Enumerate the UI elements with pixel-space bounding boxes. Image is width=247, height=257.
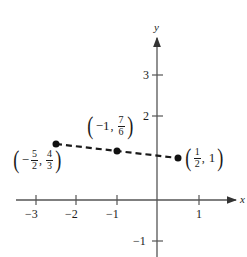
comma: , — [111, 119, 114, 134]
close-paren: ) — [217, 145, 223, 171]
point-label-neg5-2-4-3: ( − 5 2 , 4 3 ) — [12, 147, 63, 173]
y-tick-label: 2 — [143, 110, 149, 122]
fraction-y: 7 6 — [118, 115, 125, 137]
comma: , — [202, 151, 205, 166]
fraction-y: 4 3 — [46, 149, 53, 171]
y-value: 1 — [209, 150, 216, 166]
fraction-x: 5 2 — [31, 149, 38, 171]
point-neg1-7-6 — [114, 148, 121, 155]
y-axis-label: y — [154, 22, 159, 33]
x-tick-label: −3 — [25, 208, 38, 220]
x-tick-label: −1 — [106, 208, 119, 220]
open-paren: ( — [87, 113, 93, 139]
y-tick-label: −1 — [133, 235, 146, 247]
minus-sign: − — [22, 152, 29, 168]
point-label-1-2-1: ( 1 2 , 1 ) — [184, 145, 225, 171]
close-paren: ) — [55, 147, 61, 173]
x-axis-label: x — [240, 194, 245, 205]
open-paren: ( — [13, 147, 19, 173]
denominator: 2 — [194, 159, 201, 170]
denominator: 3 — [46, 161, 53, 172]
denominator: 6 — [118, 127, 125, 138]
fraction-x: 1 2 — [194, 147, 201, 169]
open-paren: ( — [185, 145, 191, 171]
x-tick-label: 1 — [196, 208, 202, 220]
y-tick-label: 3 — [143, 69, 149, 81]
denominator: 2 — [31, 161, 38, 172]
numerator: 4 — [46, 149, 53, 161]
comma: , — [39, 153, 42, 168]
x-tick-label: −2 — [65, 208, 78, 220]
point-1-2-1 — [175, 155, 182, 162]
point-label-neg1-7-6: ( −1 , 7 6 ) — [86, 113, 134, 139]
numerator: 1 — [194, 147, 201, 159]
numerator: 7 — [118, 115, 125, 127]
numerator: 5 — [31, 149, 38, 161]
x-value: −1 — [96, 118, 110, 134]
close-paren: ) — [127, 113, 133, 139]
